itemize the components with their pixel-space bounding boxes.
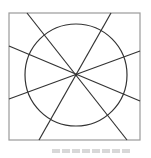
- center-lines: [9, 13, 140, 140]
- geometry-diagram: [0, 0, 151, 158]
- center-point: [75, 74, 78, 77]
- diameter-line-1: [27, 13, 127, 140]
- diameter-line-4: [9, 51, 140, 99]
- diameter-line-2: [39, 13, 111, 140]
- figure-caption: [18, 149, 130, 154]
